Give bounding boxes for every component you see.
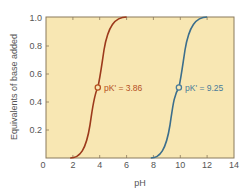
pk-annotation-1: pK' = 3.86: [104, 83, 143, 93]
y-tick-0.8: 0.8: [29, 41, 42, 51]
x-tick-0: 0: [40, 160, 45, 170]
y-tick-0.2: 0.2: [29, 125, 42, 135]
x-tick-14: 14: [229, 160, 239, 170]
x-tick-4: 4: [97, 160, 102, 170]
y-axis-label: Equivalents of base added: [9, 34, 19, 140]
y-tick-0.4: 0.4: [29, 97, 42, 107]
x-tick-8: 8: [151, 160, 156, 170]
x-tick-2: 2: [70, 160, 75, 170]
y-tick-0.6: 0.6: [29, 69, 42, 79]
pk-marker-2: [176, 85, 181, 90]
pk-marker-1: [95, 85, 100, 90]
x-tick-6: 6: [124, 160, 129, 170]
x-tick-12: 12: [202, 160, 212, 170]
pk-annotation-2: pK' = 9.25: [185, 83, 224, 93]
x-tick-10: 10: [175, 160, 185, 170]
x-axis-label: pH: [134, 178, 146, 188]
y-tick-1.0: 1.0: [29, 13, 42, 23]
titration-chart: 1.0 0.8 0.6 0.4 0.2 0 2 4 6 8 10 12 14 p…: [0, 0, 246, 193]
